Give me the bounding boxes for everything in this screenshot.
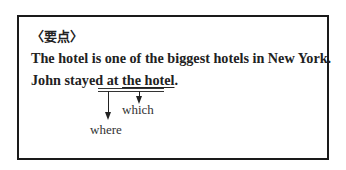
label-where: where: [90, 122, 122, 138]
arrow-where-shaft: [108, 91, 109, 113]
sentence-2-suffix: .: [174, 72, 178, 88]
arrow-down-icon: [105, 112, 111, 120]
sentence-2-prefix: John stayed at: [31, 72, 122, 88]
double-line-top: [98, 88, 164, 89]
label-which: which: [122, 102, 154, 118]
summary-heading: 〈要点〉: [31, 26, 83, 45]
sentence-1: The hotel is one of the biggest hotels i…: [31, 50, 331, 67]
underlined-phrase: the hotel: [122, 72, 174, 88]
sentence-2: John stayed at the hotel.: [31, 72, 178, 89]
